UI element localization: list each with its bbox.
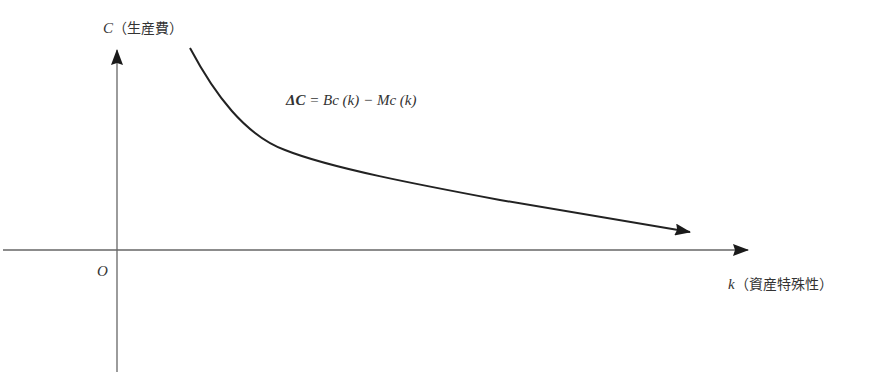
origin-label: O (97, 264, 108, 279)
y-axis-symbol: C (103, 20, 113, 36)
x-axis-symbol: k (728, 276, 735, 292)
y-axis-description: （生産費） (113, 20, 183, 36)
delta-c-curve (190, 48, 690, 232)
delta-c-symbol: ΔC (286, 92, 305, 108)
curve-equation: ΔC = Bc (k) − Mc (k) (286, 93, 416, 108)
x-axis-description: （資産特殊性） (735, 276, 833, 292)
equation-rhs: = Bc (k) − Mc (k) (305, 92, 416, 108)
x-axis-label: k（資産特殊性） (728, 277, 833, 292)
diagram-canvas (0, 0, 871, 386)
y-axis-label: C（生産費） (103, 21, 183, 36)
